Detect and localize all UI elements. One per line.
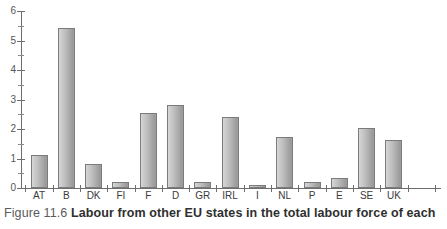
x-axis-category-label: I bbox=[244, 191, 271, 201]
x-axis-category-label: F bbox=[135, 191, 162, 201]
bar-series bbox=[0, 0, 447, 200]
x-axis-category-label: P bbox=[298, 191, 325, 201]
bar bbox=[167, 105, 184, 188]
bar bbox=[276, 137, 293, 188]
caption-text: Labour from other EU states in the total… bbox=[71, 206, 435, 220]
bar bbox=[358, 128, 375, 188]
bar bbox=[31, 155, 48, 188]
bar bbox=[140, 113, 157, 188]
x-axis-category-label: B bbox=[53, 191, 80, 201]
bar bbox=[194, 182, 211, 188]
bar bbox=[222, 117, 239, 188]
x-axis-category-label: NL bbox=[271, 191, 298, 201]
x-axis-category-label: FI bbox=[107, 191, 134, 201]
x-axis-category-label: AT bbox=[25, 191, 52, 201]
figure-caption: Figure 11.6 Labour from other EU states … bbox=[4, 206, 444, 220]
bar bbox=[249, 185, 266, 188]
figure-number: Figure 11.6 bbox=[4, 206, 67, 220]
figure-11-6: 0123456 ATBDKFIFDGRIRLINLPESEUK Figure 1… bbox=[0, 0, 447, 229]
x-axis-category-label: SE bbox=[353, 191, 380, 201]
bar bbox=[331, 178, 348, 188]
x-axis-category-label: D bbox=[162, 191, 189, 201]
chart-plot-area: 0123456 ATBDKFIFDGRIRLINLPESEUK bbox=[0, 0, 447, 200]
bar bbox=[112, 182, 129, 188]
bar bbox=[304, 182, 321, 188]
x-axis-category-label: UK bbox=[380, 191, 407, 201]
x-axis-category-label: DK bbox=[80, 191, 107, 201]
bar bbox=[385, 140, 402, 188]
bar bbox=[85, 164, 102, 188]
bar bbox=[58, 28, 75, 188]
x-axis-category-label: IRL bbox=[216, 191, 243, 201]
x-axis-category-label: GR bbox=[189, 191, 216, 201]
x-axis-category-label: E bbox=[326, 191, 353, 201]
